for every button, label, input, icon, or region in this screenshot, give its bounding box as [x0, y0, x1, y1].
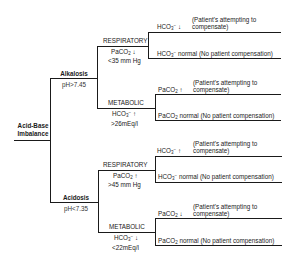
- uncomp-text: normal (No patient compensation): [178, 112, 275, 119]
- alk-meta-indicator: HCO3− ↑: [112, 110, 136, 117]
- root-trunk-line: [50, 78, 51, 203]
- value-sub: 2: [175, 213, 178, 218]
- value-sup: −: [174, 23, 177, 28]
- acidosis-ph: pH<7.35: [54, 205, 98, 212]
- acid-resp-label: RESPIRATORY: [103, 161, 147, 168]
- alk-resp-uncomp: HCO3− normal (No patient compensation): [157, 50, 273, 57]
- arrow-down-icon: ↓: [132, 48, 135, 55]
- arrow-up-icon: ↑: [178, 147, 181, 154]
- acid-meta-comp-note1: (Patient's attempting to: [193, 203, 257, 210]
- alk-resp-comp-note1: (Patient's attempting to: [192, 16, 256, 23]
- ind-text: PaCO: [113, 172, 130, 179]
- value-text: PaCO: [158, 86, 175, 93]
- alk-meta-uncomp: PaCO2 normal (No patient compensation): [158, 112, 274, 119]
- arrow-down-icon: ↓: [135, 234, 138, 241]
- alk-meta-uncomp-line: [155, 120, 281, 121]
- alk-meta-line: [97, 108, 149, 109]
- alk-resp-uncomp-line: [148, 58, 281, 59]
- acid-meta-uncomp-line: [155, 245, 282, 246]
- value-sub: 2: [175, 89, 178, 94]
- alk-meta-range: >26mEq/l: [111, 120, 138, 127]
- root-label-line2: Imbalance: [14, 130, 52, 137]
- acid-meta-range: <22mEq/l: [112, 244, 139, 251]
- acid-resp-comp-note1: (Patient's attempting to: [193, 140, 257, 147]
- acidosis-split-line: [98, 170, 99, 233]
- acid-meta-label: METABOLIC: [109, 223, 145, 230]
- alk-resp-comp-value: HCO3− ↓: [157, 23, 181, 30]
- root-label-line1: Acid-Base: [14, 122, 52, 129]
- acid-resp-uncomp-line: [155, 182, 282, 183]
- acid-meta-comp-value: PaCO2 ↓: [158, 210, 183, 217]
- arrow-down-icon: ↓: [179, 210, 182, 217]
- alkalosis-label: Alkalosis: [52, 70, 96, 77]
- value-text: PaCO: [158, 210, 175, 217]
- ind-sup: −: [129, 110, 132, 115]
- alk-resp-ind-text: PaCO: [111, 48, 128, 55]
- ind-text: HCO: [114, 234, 128, 241]
- alk-meta-comp-value: PaCO2 ↑: [158, 86, 183, 93]
- acid-resp-connector: [149, 170, 156, 171]
- alkalosis-ph: pH>7.45: [52, 81, 96, 88]
- alk-resp-comp-line: [148, 32, 281, 33]
- alk-meta-connector: [148, 108, 156, 109]
- alk-meta-comp-note1: (Patient's attempting to: [193, 79, 257, 86]
- arrow-up-icon: ↑: [134, 172, 137, 179]
- alk-resp-label: RESPIRATORY: [103, 37, 147, 44]
- ind-sup: −: [131, 234, 134, 239]
- uncomp-text: normal (No patient compensation): [178, 237, 275, 244]
- acid-resp-comp-note2: compensate): [193, 147, 229, 154]
- acid-meta-connector: [149, 232, 156, 233]
- acid-meta-uncomp: PaCO2 normal (No patient compensation): [158, 237, 274, 244]
- acid-resp-indicator: PaCO2 ↑: [113, 172, 138, 179]
- alk-meta-comp-note2: compensate): [193, 86, 229, 93]
- value-sup: −: [174, 147, 177, 152]
- value-text: HCO: [157, 23, 171, 30]
- value-text: PaCO: [158, 112, 175, 119]
- alk-resp-comp-note2: compensate): [192, 23, 228, 30]
- alk-resp-line: [97, 46, 149, 47]
- value-text: PaCO: [158, 237, 175, 244]
- arrow-up-icon: ↑: [179, 86, 182, 93]
- alk-resp-indicator: PaCO2 ↓: [111, 48, 136, 55]
- acid-meta-comp-line: [155, 218, 282, 219]
- ind-sub: 2: [130, 175, 133, 180]
- arrow-down-icon: ↓: [178, 23, 181, 30]
- value-text: HCO: [158, 173, 172, 180]
- alk-meta-label: METABOLIC: [108, 99, 144, 106]
- alk-resp-ind-sub: 2: [128, 51, 131, 56]
- arrow-up-icon: ↑: [133, 110, 136, 117]
- acid-resp-range: >45 mm Hg: [108, 181, 141, 188]
- acid-meta-comp-note2: compensate): [193, 210, 229, 217]
- acid-resp-comp-line: [155, 156, 282, 157]
- acidosis-label: Acidosis: [54, 194, 98, 201]
- alk-meta-comp-line: [155, 94, 281, 95]
- acid-resp-uncomp: HCO3− normal (No patient compensation): [158, 173, 274, 180]
- alkalosis-branch-line: [50, 78, 98, 79]
- acid-meta-line: [98, 232, 150, 233]
- acid-meta-indicator: HCO3− ↓: [114, 234, 138, 241]
- acid-resp-comp-value: HCO3− ↑: [157, 147, 181, 154]
- alk-resp-split-line: [148, 32, 149, 59]
- root-underline: [14, 140, 51, 141]
- uncomp-text: normal (No patient compensation): [177, 173, 274, 180]
- alk-resp-range: <35 mm Hg: [108, 57, 141, 64]
- value-text: HCO: [157, 147, 171, 154]
- acidosis-branch-line: [50, 202, 99, 203]
- ind-text: HCO: [112, 110, 126, 117]
- acid-resp-line: [98, 170, 150, 171]
- value-text: HCO: [157, 50, 171, 57]
- alkalosis-split-line: [97, 46, 98, 109]
- uncomp-text: normal (No patient compensation): [176, 50, 273, 57]
